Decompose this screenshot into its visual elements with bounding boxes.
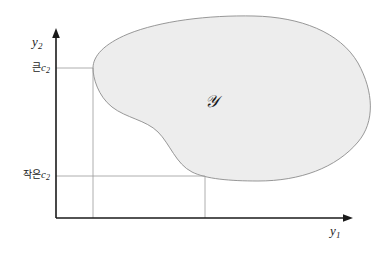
tick-label-large-c2-subscript: 2 [46, 66, 50, 75]
objective-space-figure: y2 y1 큰c2 작은c2 𝒴 [0, 0, 387, 256]
y-axis-label: y2 [32, 35, 42, 51]
tick-label-large-c2: 큰c2 [4, 62, 50, 75]
attainable-region-shape [93, 16, 370, 181]
tick-label-small-c2-korean: 작은 [23, 169, 41, 180]
region-label: 𝒴 [205, 93, 218, 110]
y-axis-label-subscript: 2 [38, 41, 43, 51]
x-axis-label: y1 [330, 224, 340, 240]
tick-label-large-c2-korean: 큰 [32, 62, 41, 73]
x-axis-arrowhead-icon [343, 214, 353, 222]
tick-label-small-c2-subscript: 2 [46, 173, 50, 182]
y-axis-arrowhead-icon [52, 28, 60, 38]
figure-canvas [0, 0, 387, 256]
tick-label-small-c2: 작은c2 [0, 169, 50, 182]
x-axis-label-subscript: 1 [336, 230, 341, 240]
